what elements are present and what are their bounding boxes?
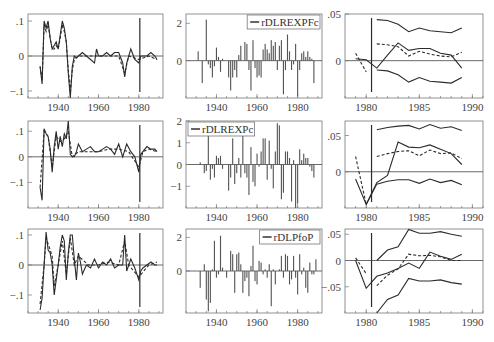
- bar: [222, 59, 223, 61]
- bar: [232, 138, 233, 164]
- x-tick-label: 1980: [287, 101, 310, 113]
- bar: [271, 271, 272, 306]
- bar: [216, 156, 217, 165]
- bar: [285, 61, 286, 70]
- bar: [230, 165, 231, 178]
- bar: [283, 165, 284, 193]
- x-tick-label: 1990: [461, 211, 484, 223]
- bar: [273, 46, 274, 61]
- x-tick-label: 1940: [47, 101, 70, 113]
- y-tick-label: −.1: [10, 289, 24, 301]
- bar: [267, 49, 268, 60]
- bar: [299, 61, 300, 70]
- y-tick-label: 2: [177, 115, 183, 127]
- bar: [261, 263, 262, 271]
- bar: [301, 271, 302, 274]
- x-tick-label: 1980: [128, 211, 151, 223]
- bar: [210, 271, 211, 303]
- bar: [228, 165, 229, 191]
- x-tick-label: 1940: [47, 211, 70, 223]
- bar: [200, 162, 201, 164]
- bar: [252, 40, 253, 61]
- bar: [267, 165, 268, 180]
- bar: [222, 165, 223, 169]
- bar: [250, 266, 251, 271]
- x-tick-label: 1960: [88, 316, 111, 328]
- bar: [216, 48, 217, 61]
- bar: [291, 165, 292, 202]
- bar: [263, 49, 264, 60]
- bar: [263, 271, 264, 274]
- bar: [299, 254, 300, 271]
- x-tick-label: 1980: [355, 101, 378, 113]
- plot-frame: [28, 229, 163, 313]
- bar: [214, 165, 215, 178]
- plot-frame: [345, 14, 483, 98]
- bar: [297, 271, 298, 295]
- bar: [291, 271, 292, 279]
- bar: [275, 271, 276, 284]
- y-tick-label: 0: [177, 55, 183, 67]
- bar: [234, 165, 235, 185]
- y-tick-label: .1: [16, 229, 24, 241]
- bar: [309, 263, 310, 271]
- bar: [303, 268, 304, 271]
- bar: [279, 269, 280, 271]
- bar: [271, 165, 272, 169]
- bar: [240, 46, 241, 61]
- bar: [275, 151, 276, 164]
- bar: [281, 40, 282, 61]
- y-tick-label: .1: [16, 125, 24, 137]
- bar: [202, 61, 203, 83]
- bar: [269, 264, 270, 271]
- bar: [250, 147, 251, 164]
- x-tick-label: 1960: [88, 101, 111, 113]
- bar: [252, 165, 253, 182]
- bar: [293, 61, 294, 65]
- plot-frame: [345, 229, 483, 313]
- bar: [287, 151, 288, 164]
- bar: [277, 123, 278, 164]
- bar: [273, 269, 274, 271]
- bar: [267, 271, 268, 278]
- x-tick-label: 1960: [246, 316, 269, 328]
- bar: [198, 51, 199, 60]
- y-tick-label: 1: [177, 137, 183, 149]
- bar: [263, 138, 264, 164]
- legend-label: rDLREXPFc: [261, 16, 319, 28]
- bar: [236, 254, 237, 271]
- bar: [297, 61, 298, 96]
- panel-row1-col1: 194019601980.10−.1: [10, 14, 163, 113]
- bar: [218, 158, 219, 165]
- panel-row3-col3: 198019851990.050−.05: [321, 228, 484, 328]
- bar: [277, 61, 278, 70]
- bar: [289, 51, 290, 60]
- bar: [307, 271, 308, 293]
- bar: [234, 61, 235, 70]
- bar: [214, 61, 215, 67]
- bar: [238, 55, 239, 61]
- bar: [289, 158, 290, 165]
- y-tick-label: .1: [16, 15, 24, 27]
- x-tick-label: 1980: [355, 316, 378, 328]
- y-tick-label: −.1: [10, 85, 24, 97]
- bar: [206, 165, 207, 172]
- plot-frame: [28, 121, 163, 208]
- bar: [265, 138, 266, 164]
- bar: [305, 57, 306, 61]
- bar: [303, 51, 304, 60]
- x-tick-label: 1940: [47, 316, 70, 328]
- series-actual: [356, 53, 367, 72]
- bar: [259, 261, 260, 271]
- bar: [313, 165, 314, 178]
- panel-row1-col3: 198019851990.050: [327, 8, 484, 113]
- bar: [261, 151, 262, 164]
- bar: [291, 61, 292, 70]
- bar: [216, 271, 217, 278]
- y-tick-label: 0: [19, 259, 25, 271]
- bar: [287, 35, 288, 61]
- bar: [212, 165, 213, 169]
- bar: [305, 271, 306, 288]
- bar: [281, 256, 282, 271]
- bar: [230, 251, 231, 271]
